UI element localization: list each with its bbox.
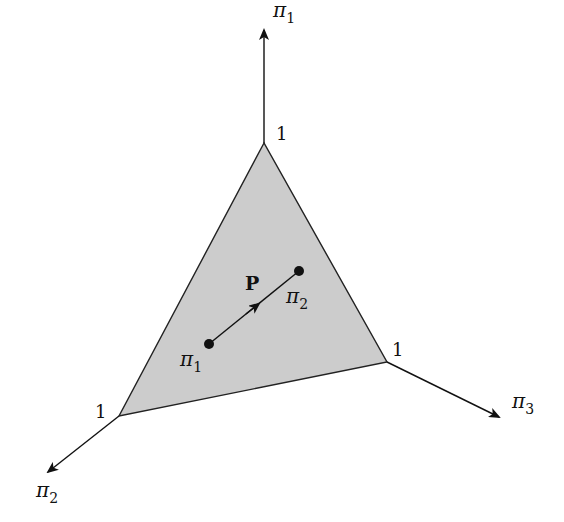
tick-pi1: 1 xyxy=(276,123,287,144)
matrix-label: P xyxy=(245,272,259,294)
axis-label-pi1: π1 xyxy=(272,0,295,26)
tick-pi2: 1 xyxy=(95,401,106,422)
axis-label-pi3: π3 xyxy=(511,389,534,417)
tick-pi3: 1 xyxy=(392,339,403,360)
simplex-diagram: π1 1 π2 1 π3 1 P π1 π2 xyxy=(0,0,564,522)
point-start xyxy=(204,339,214,349)
point-end xyxy=(294,266,304,276)
axis-pi2 xyxy=(48,416,119,472)
axis-label-pi2: π2 xyxy=(35,478,58,506)
axis-pi3 xyxy=(387,362,499,417)
